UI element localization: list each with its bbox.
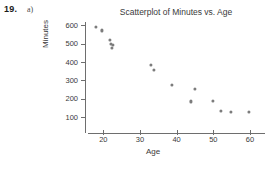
scatter-point (152, 69, 155, 72)
y-tick-mark (81, 99, 86, 100)
scatter-point (219, 110, 222, 113)
x-axis-title: Age (146, 147, 160, 156)
y-tick-label: 500 (54, 39, 78, 48)
y-axis-title: Minutes (41, 20, 50, 48)
scatter-point (149, 64, 152, 67)
scatter-point (108, 38, 111, 41)
scatter-point (94, 26, 97, 29)
scatter-point (110, 46, 113, 49)
scatter-point (229, 110, 232, 113)
y-tick-label: 400 (54, 58, 78, 67)
x-tick-label: 30 (130, 135, 150, 144)
scatter-point (170, 83, 173, 86)
scatter-point (193, 87, 196, 90)
x-tick-label: 20 (93, 135, 113, 144)
y-tick-mark (81, 62, 86, 63)
y-tick-label: 200 (54, 94, 78, 103)
y-tick-label: 600 (54, 21, 78, 30)
y-tick-label: 300 (54, 76, 78, 85)
scatter-point (248, 110, 251, 113)
x-tick-label: 60 (240, 135, 260, 144)
scatter-point (190, 100, 193, 103)
x-tick-label: 50 (203, 135, 223, 144)
scatter-point (212, 99, 215, 102)
scatter-point (100, 29, 103, 32)
page-root: 19. a) Scatterplot of Minutes vs. Age Mi… (0, 0, 271, 171)
y-tick-mark (81, 25, 86, 26)
y-tick-label: 100 (54, 113, 78, 122)
chart-title: Scatterplot of Minutes vs. Age (86, 7, 266, 17)
y-tick-mark (81, 117, 86, 118)
y-tick-mark (81, 80, 86, 81)
y-tick-mark (81, 44, 86, 45)
x-tick-label: 40 (167, 135, 187, 144)
scatterplot-figure: Scatterplot of Minutes vs. Age Minutes A… (0, 0, 271, 171)
